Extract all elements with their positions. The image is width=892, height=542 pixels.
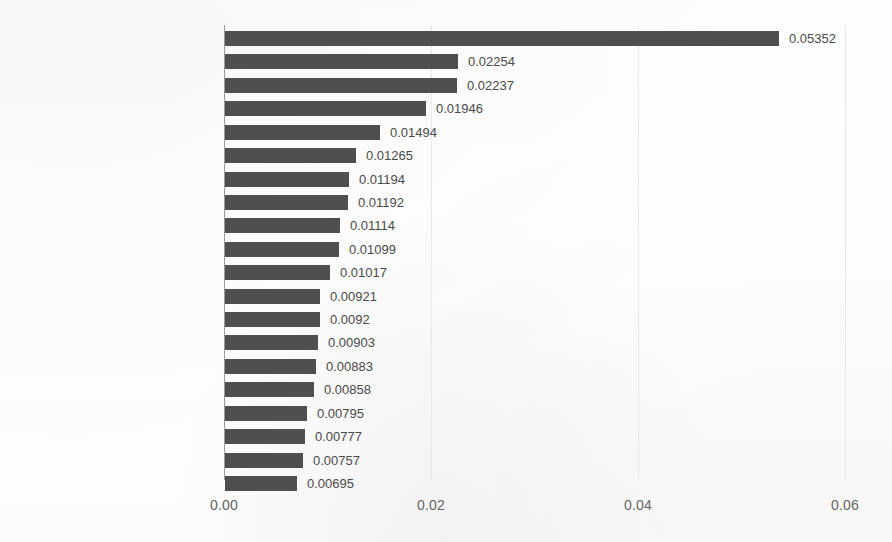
bar xyxy=(225,101,426,116)
bar xyxy=(225,218,340,233)
bar xyxy=(225,429,305,444)
bar-value-label: 0.01099 xyxy=(349,242,396,257)
bar-value-label: 0.00858 xyxy=(324,382,371,397)
bar-value-label: 0.01265 xyxy=(366,148,413,163)
bar xyxy=(225,195,348,210)
bar-value-label: 0.0092 xyxy=(330,312,370,327)
bar-value-label: 0.00695 xyxy=(307,476,354,491)
bar-value-label: 0.01192 xyxy=(358,195,404,210)
bar xyxy=(225,359,316,374)
bar-value-label: 0.01946 xyxy=(436,101,483,116)
bar xyxy=(225,335,318,350)
bar-value-label: 0.01114 xyxy=(350,218,395,233)
chart-page: negative (sentiment)0.05352percentages (… xyxy=(0,0,892,542)
bar-value-label: 0.05352 xyxy=(789,31,836,46)
bar xyxy=(225,31,779,46)
bar xyxy=(225,265,330,280)
bar xyxy=(225,148,356,163)
bar-value-label: 0.00903 xyxy=(328,335,375,350)
x-tick-label: 0.06 xyxy=(831,497,859,513)
gridline-0.04 xyxy=(638,25,639,480)
bar-value-label: 0.00883 xyxy=(326,359,373,374)
bar xyxy=(225,406,307,421)
bar xyxy=(225,476,297,491)
bar-value-label: 0.01194 xyxy=(359,172,405,187)
bar xyxy=(225,382,314,397)
bar-value-label: 0.00757 xyxy=(313,453,360,468)
x-tick-label: 0.02 xyxy=(417,497,445,513)
bar-value-label: 0.01017 xyxy=(340,265,387,280)
bar xyxy=(225,289,320,304)
bar-value-label: 0.00921 xyxy=(330,289,377,304)
bar xyxy=(225,125,380,140)
bar-value-label: 0.00795 xyxy=(317,406,364,421)
bar xyxy=(225,78,457,93)
bar-value-label: 0.02254 xyxy=(468,54,515,69)
bar xyxy=(225,312,320,327)
bar-value-label: 0.00777 xyxy=(315,429,362,444)
bar xyxy=(225,242,339,257)
bar xyxy=(225,453,303,468)
bar-value-label: 0.02237 xyxy=(467,78,514,93)
bar-value-label: 0.01494 xyxy=(390,125,437,140)
gridline-0.06 xyxy=(845,25,846,480)
x-tick-label: 0.04 xyxy=(624,497,652,513)
bar-chart-plot: negative (sentiment)0.05352percentages (… xyxy=(0,0,892,542)
bar xyxy=(225,54,458,69)
x-tick-label: 0.00 xyxy=(210,497,238,513)
bar xyxy=(225,172,349,187)
gridline-0.02 xyxy=(431,25,432,480)
